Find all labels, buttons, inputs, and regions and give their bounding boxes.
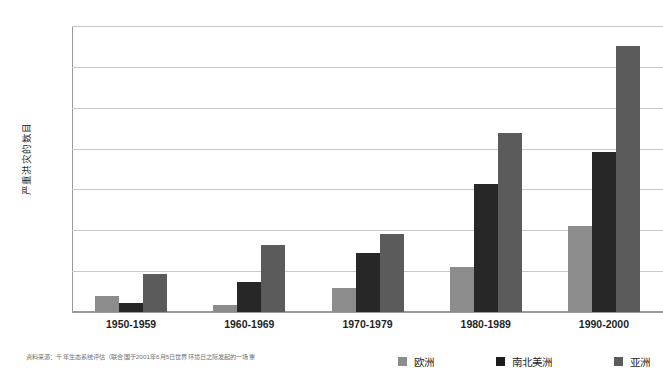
bar-groups	[72, 26, 663, 312]
gridline	[72, 312, 663, 313]
bar-2	[616, 46, 640, 312]
legend-item[interactable]: 南北美洲	[496, 353, 552, 369]
bar-1	[592, 152, 616, 312]
bar-group-bars	[308, 26, 426, 312]
legend-swatch-icon	[398, 357, 407, 366]
bar-0	[332, 288, 356, 313]
bar-group	[545, 26, 663, 312]
footnote: 资料来源：千年生态系统评估（联合国于2001年6月5日世界环境日之际发起的一场重	[26, 352, 346, 361]
bar-group	[190, 26, 308, 312]
plot-area: 350300250200150100500	[72, 26, 663, 312]
bar-group	[72, 26, 190, 312]
x-axis-tick-label: 1980-1989	[427, 318, 545, 334]
legend-label: 南北美洲	[512, 354, 552, 369]
bar-2	[498, 133, 522, 312]
bar-0	[95, 296, 119, 312]
bar-1	[237, 282, 261, 312]
legend-label: 亚洲	[630, 354, 650, 369]
bar-1	[356, 253, 380, 312]
bar-group-bars	[545, 26, 663, 312]
legend-item[interactable]: 亚洲	[614, 353, 650, 369]
y-axis-title: 严重洪灾的数目	[19, 69, 33, 249]
x-axis-tick-label: 1970-1979	[308, 318, 426, 334]
bar-group	[427, 26, 545, 312]
legend: 欧洲南北美洲亚洲	[398, 353, 663, 369]
bar-2	[261, 245, 285, 312]
x-axis-tick-labels: 1950-19591960-19691970-19791980-19891990…	[72, 318, 663, 334]
bar-1	[119, 303, 143, 312]
bar-1	[474, 184, 498, 312]
bar-0	[213, 305, 237, 312]
x-axis-tick-label: 1950-1959	[72, 318, 190, 334]
legend-label: 欧洲	[414, 354, 434, 369]
bar-2	[380, 234, 404, 312]
legend-item[interactable]: 欧洲	[398, 353, 434, 369]
bar-chart: 严重洪灾的数目 350300250200150100500 1950-19591…	[0, 0, 663, 370]
bar-group	[308, 26, 426, 312]
bar-0	[450, 267, 474, 312]
bar-group-bars	[427, 26, 545, 312]
bar-2	[143, 274, 167, 312]
x-axis-tick-label: 1960-1969	[190, 318, 308, 334]
bar-0	[568, 226, 592, 312]
legend-swatch-icon	[614, 357, 623, 366]
legend-swatch-icon	[496, 357, 505, 366]
bar-group-bars	[72, 26, 190, 312]
x-axis-tick-label: 1990-2000	[545, 318, 663, 334]
bar-group-bars	[190, 26, 308, 312]
